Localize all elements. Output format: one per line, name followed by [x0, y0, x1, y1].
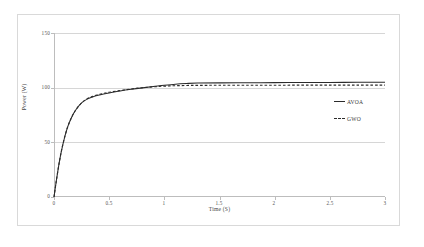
y-tick-mark-0	[51, 197, 54, 198]
legend-solid-line-icon	[334, 99, 345, 105]
legend-dashed-line-icon	[334, 116, 345, 122]
x-tick-mark-2p5	[330, 197, 331, 200]
y-axis-title: Power (W)	[21, 67, 27, 127]
x-tick-mark-1	[164, 197, 165, 200]
y-tick-label-100: 100	[34, 84, 50, 90]
y-tick-label-50: 50	[34, 139, 50, 145]
x-tick-mark-0p5	[109, 197, 110, 200]
legend-label-avoa: AVOA	[347, 99, 363, 105]
legend-item-avoa: AVOA	[334, 93, 392, 110]
x-tick-mark-1p5	[220, 197, 221, 200]
y-tick-label-0: 0	[34, 193, 50, 199]
y-tick-label-150: 150	[34, 30, 50, 36]
chart-legend: AVOA GWO	[334, 93, 392, 127]
x-tick-mark-3	[385, 197, 386, 200]
legend-item-gwo: GWO	[334, 110, 392, 127]
x-axis-title: Time (S)	[54, 206, 385, 212]
legend-label-gwo: GWO	[347, 116, 361, 122]
x-tick-mark-2	[275, 197, 276, 200]
chart-figure: Power (W) 150 100 50 0 0 0.5 1 1.5 2 2.5…	[0, 0, 424, 247]
x-tick-mark-0	[54, 197, 55, 200]
